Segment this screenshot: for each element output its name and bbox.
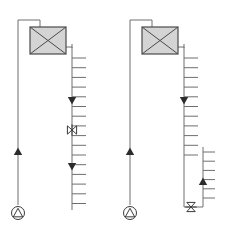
return-riser-left-connector-pipe[interactable]	[66, 47, 72, 48]
base-connection	[184, 202, 203, 211]
secondary-riser-right	[199, 147, 215, 207]
return-riser-left	[67, 44, 86, 210]
pump-symbol[interactable]	[12, 207, 25, 220]
panels-layer	[12, 20, 216, 220]
return-riser-right	[180, 44, 198, 207]
return-riser-right-connector-pipe[interactable]	[178, 47, 184, 48]
flow-arrow-down	[180, 97, 188, 105]
flow-arrow-up	[126, 148, 134, 156]
secondary-riser-right-branches	[203, 152, 215, 198]
left-riser-assembly	[12, 20, 87, 220]
balancing-valve-right-wing	[72, 126, 77, 134]
air-handling-unit	[30, 27, 66, 54]
diagram-canvas: Piping riser schematic Two identical air…	[0, 0, 225, 230]
flow-arrow-down	[68, 97, 76, 105]
flow-arrow-up	[14, 148, 22, 156]
air-handling-unit	[142, 27, 178, 54]
return-riser-right-connector	[178, 47, 184, 48]
isolation-valve[interactable]	[185, 202, 196, 211]
piping-riser-schematic: Piping riser schematic Two identical air…	[0, 0, 225, 230]
pump-symbol[interactable]	[124, 207, 137, 220]
return-riser-right-branches	[184, 58, 198, 155]
return-riser-left-connector	[66, 47, 72, 48]
flow-arrow-down	[68, 163, 76, 171]
flow-arrow-up	[199, 178, 207, 186]
isolation-valve-right-wing	[187, 207, 195, 212]
right-riser-assembly	[124, 20, 216, 220]
